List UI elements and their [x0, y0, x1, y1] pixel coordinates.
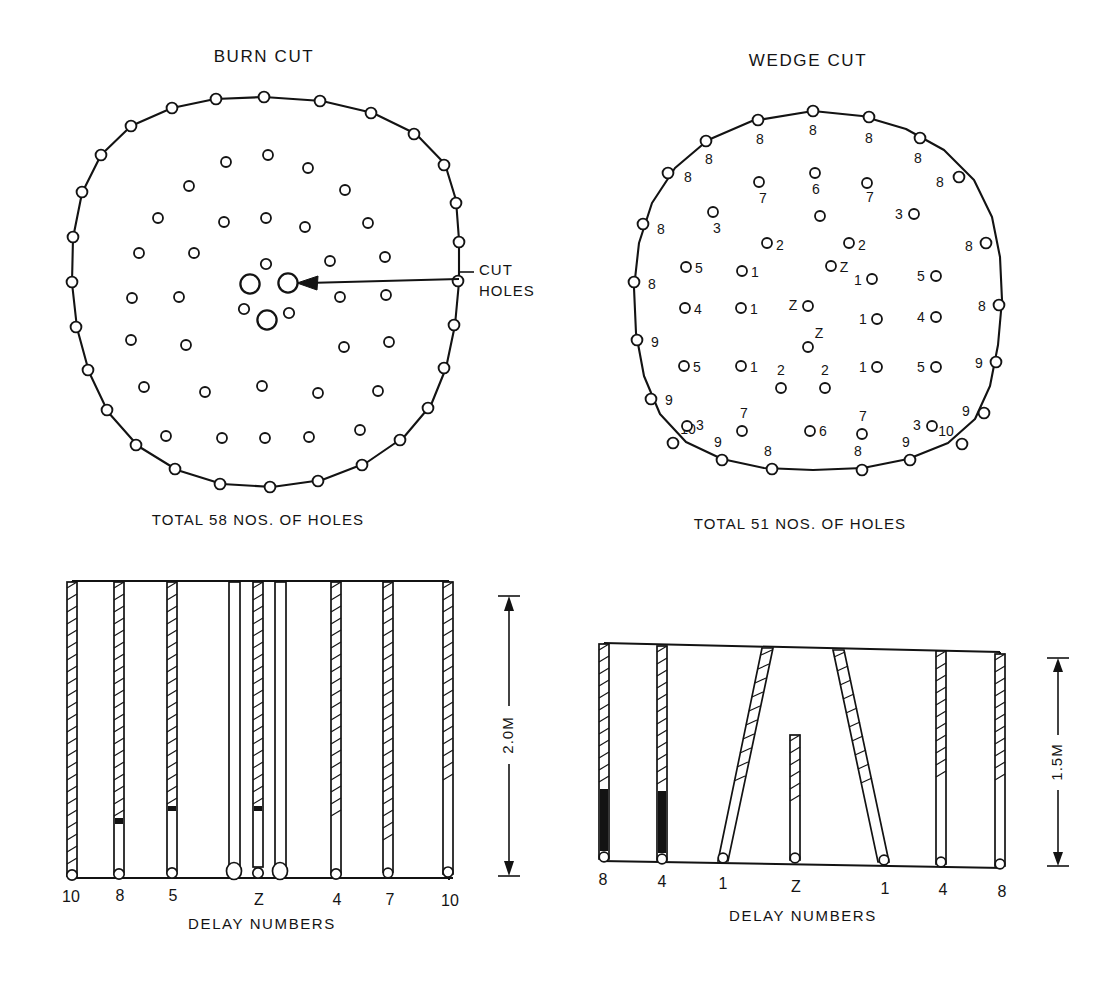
svg-text:8: 8 [116, 887, 125, 904]
svg-text:Z: Z [791, 878, 801, 895]
svg-text:7: 7 [866, 189, 874, 205]
svg-text:1: 1 [854, 272, 862, 288]
blasthole-col-inclined [833, 650, 889, 865]
svg-text:8: 8 [978, 298, 986, 314]
svg-text:Z: Z [254, 891, 264, 908]
svg-text:1: 1 [719, 875, 728, 892]
svg-text:8: 8 [648, 276, 656, 292]
svg-text:10: 10 [938, 423, 954, 439]
wedge-cut-face-outline [634, 111, 1002, 470]
burn-cut-total-label: TOTAL 58 NOS. OF HOLES [152, 511, 364, 528]
wedge-interior-holes: 7 6 7 3 3 2 2 5 1 Z 1 5 4 1 Z 1 [679, 168, 941, 439]
svg-text:9: 9 [651, 334, 659, 350]
cut-hole-large [278, 273, 297, 292]
cut-hole-small [239, 304, 249, 314]
svg-text:5: 5 [169, 887, 178, 904]
svg-text:1: 1 [859, 359, 867, 375]
wedge-section-caption: DELAY NUMBERS [729, 907, 877, 924]
svg-text:4: 4 [333, 891, 342, 908]
svg-text:8: 8 [764, 443, 772, 459]
svg-text:6: 6 [812, 181, 820, 197]
svg-text:1: 1 [751, 264, 759, 280]
wedge-depth-label: 1.5M [1048, 743, 1065, 780]
wedge-cut-section: 8 4 1 Z 1 4 8 DELAY NUMBERS 1.5M [599, 643, 1069, 924]
svg-text:8: 8 [965, 238, 973, 254]
blasthole-col [67, 582, 77, 880]
blasthole-col [253, 582, 263, 878]
svg-text:2: 2 [821, 362, 829, 378]
cut-holes-label-line1: CUT [479, 261, 513, 278]
cut-hole-small [284, 308, 294, 318]
svg-text:5: 5 [917, 359, 925, 375]
blasthole-col [936, 651, 946, 867]
wedge-cut-panel: WEDGE CUT 8 8 8 8 8 8 8 8 8 8 8 9 9 9 9 … [629, 51, 1005, 531]
blasthole-col [657, 646, 667, 864]
svg-text:Z: Z [815, 325, 824, 341]
drawing-sheet: BURN CUT [0, 0, 1102, 989]
svg-text:2: 2 [858, 237, 866, 253]
svg-text:8: 8 [914, 150, 922, 166]
technical-drawing-svg: BURN CUT [0, 0, 1102, 989]
blasthole-col [790, 735, 800, 863]
blasthole-col [227, 582, 242, 880]
burn-cut-title: BURN CUT [214, 47, 315, 66]
svg-text:8: 8 [809, 122, 817, 138]
svg-text:1: 1 [859, 311, 867, 327]
svg-text:8: 8 [854, 443, 862, 459]
wedge-cut-total-label: TOTAL 51 NOS. OF HOLES [694, 515, 906, 532]
svg-text:9: 9 [665, 392, 673, 408]
svg-text:1: 1 [881, 880, 890, 897]
svg-text:8: 8 [684, 169, 692, 185]
svg-text:7: 7 [740, 405, 748, 421]
cut-hole-large [240, 274, 259, 293]
wedge-section-delay-numbers: 8 4 1 Z 1 4 8 [599, 871, 1007, 900]
svg-text:1: 1 [750, 359, 758, 375]
wedge-cut-title: WEDGE CUT [749, 51, 867, 70]
blasthole-col [443, 582, 453, 877]
svg-text:3: 3 [713, 220, 721, 236]
blasthole-col [383, 582, 393, 878]
cut-hole-small [261, 259, 271, 269]
svg-text:Z: Z [840, 259, 849, 275]
svg-text:10: 10 [62, 888, 80, 905]
svg-text:8: 8 [705, 151, 713, 167]
blasthole-col [167, 582, 177, 878]
svg-text:3: 3 [696, 417, 704, 433]
svg-text:8: 8 [599, 871, 608, 888]
burn-section-caption: DELAY NUMBERS [188, 915, 336, 932]
svg-text:8: 8 [657, 221, 665, 237]
svg-text:Z: Z [789, 297, 798, 313]
burn-section-delay-numbers: 10 8 5 Z 4 7 10 [62, 887, 459, 909]
blasthole-col [331, 582, 341, 879]
blasthole-col [114, 582, 124, 879]
wedge-perimeter-holes: 8 8 8 8 8 8 8 8 8 8 8 9 9 9 9 10 10 9 9 … [629, 106, 1005, 476]
leader-arrowhead [297, 276, 318, 290]
burn-cut-panel: BURN CUT [67, 47, 535, 527]
burn-cut-holes-cluster [239, 259, 298, 330]
svg-text:8: 8 [756, 131, 764, 147]
cut-hole-large [257, 310, 276, 329]
svg-text:1: 1 [750, 301, 758, 317]
svg-text:7: 7 [386, 891, 395, 908]
svg-text:4: 4 [917, 309, 925, 325]
svg-text:8: 8 [998, 883, 1007, 900]
svg-text:8: 8 [936, 174, 944, 190]
burn-interior-holes [126, 150, 394, 443]
svg-text:9: 9 [975, 355, 983, 371]
svg-text:5: 5 [695, 260, 703, 276]
svg-text:4: 4 [658, 873, 667, 890]
svg-text:3: 3 [913, 417, 921, 433]
svg-text:5: 5 [917, 268, 925, 284]
svg-text:2: 2 [777, 362, 785, 378]
svg-text:7: 7 [759, 190, 767, 206]
svg-text:4: 4 [939, 881, 948, 898]
svg-text:8: 8 [865, 130, 873, 146]
svg-text:5: 5 [693, 359, 701, 375]
svg-text:6: 6 [819, 423, 827, 439]
blasthole-col [273, 582, 288, 880]
blasthole-col [995, 654, 1005, 869]
svg-text:7: 7 [859, 408, 867, 424]
svg-text:2: 2 [776, 237, 784, 253]
svg-text:9: 9 [902, 434, 910, 450]
svg-text:9: 9 [962, 403, 970, 419]
